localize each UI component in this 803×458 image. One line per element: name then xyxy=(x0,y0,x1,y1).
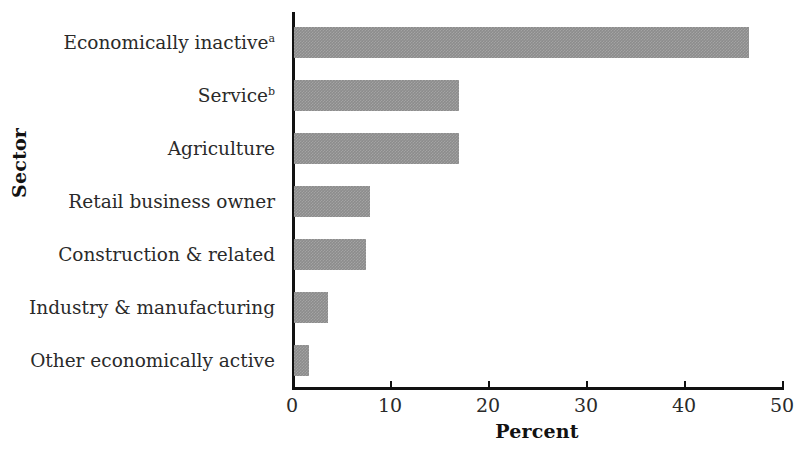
category-label-group: Economically inactiveaServicebAgricultur… xyxy=(0,12,283,387)
bar xyxy=(294,186,370,217)
x-axis-tick-label: 20 xyxy=(466,394,510,416)
category-label: Industry & manufacturing xyxy=(0,297,283,319)
x-axis-tick-label: 0 xyxy=(270,394,314,416)
x-axis-tick xyxy=(684,381,686,390)
bar-chart: Sector Economically inactiveaServicebAgr… xyxy=(0,0,803,458)
x-axis-tick xyxy=(782,381,784,390)
x-axis-tick-label: 40 xyxy=(662,394,706,416)
bar xyxy=(294,345,309,376)
bar xyxy=(294,292,328,323)
footnote-marker: a xyxy=(268,31,275,44)
category-label: Construction & related xyxy=(0,244,283,266)
category-label: Retail business owner xyxy=(0,191,283,213)
x-axis-tick xyxy=(488,381,490,390)
footnote-marker: b xyxy=(268,84,275,97)
category-label: Serviceb xyxy=(0,85,283,107)
x-axis-title: Percent xyxy=(292,420,782,442)
x-axis-tick xyxy=(390,381,392,390)
plot-area: 01020304050 xyxy=(292,12,782,387)
bar xyxy=(294,80,459,111)
x-axis-tick xyxy=(586,381,588,390)
bar xyxy=(294,27,749,58)
bar xyxy=(294,133,459,164)
x-axis-line xyxy=(292,387,782,390)
bar xyxy=(294,239,366,270)
x-axis-tick-label: 30 xyxy=(564,394,608,416)
category-label: Economically inactivea xyxy=(0,32,283,54)
category-label: Agriculture xyxy=(0,138,283,160)
x-axis-tick-label: 10 xyxy=(368,394,412,416)
x-axis-tick-label: 50 xyxy=(760,394,803,416)
category-label: Other economically active xyxy=(0,350,283,372)
